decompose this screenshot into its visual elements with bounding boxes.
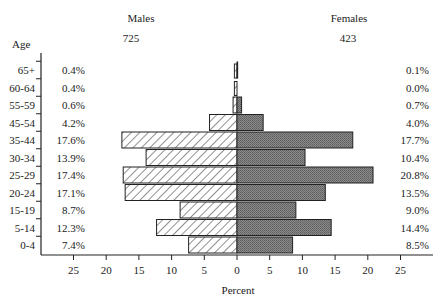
male-percent-label: 7.4% [62, 239, 85, 251]
male-bar [123, 167, 237, 183]
female-bar [237, 167, 373, 183]
age-group-label: 0-4 [20, 239, 35, 251]
female-bar [237, 202, 296, 218]
x-tick-label: 10 [297, 264, 308, 276]
x-tick-label: 0 [234, 264, 240, 276]
male-bar [210, 115, 237, 131]
age-group-label: 45-54 [9, 117, 35, 129]
female-percent-label: 4.0% [406, 117, 429, 129]
female-percent-label: 8.5% [406, 239, 429, 251]
female-percent-label: 0.7% [406, 99, 429, 111]
female-percent-label: 20.8% [401, 169, 429, 181]
x-tick-label: 5 [267, 264, 273, 276]
male-bar [125, 185, 237, 201]
male-percent-label: 0.4% [62, 64, 85, 76]
x-tick-label: 5 [202, 264, 208, 276]
x-tick-label: 20 [362, 264, 373, 276]
female-bar [237, 185, 325, 201]
female-percent-label: 17.7% [401, 134, 429, 146]
male-percent-label: 0.6% [62, 99, 85, 111]
male-percent-label: 12.3% [57, 222, 85, 234]
x-tick-label: 25 [68, 264, 79, 276]
female-bar [237, 132, 353, 148]
male-percent-label: 17.4% [57, 169, 85, 181]
female-percent-label: 0.1% [406, 64, 429, 76]
female-bar [237, 220, 331, 236]
male-bar [180, 202, 237, 218]
male-bar [189, 237, 237, 253]
age-group-label: 30-34 [9, 152, 35, 164]
male-bar [234, 82, 237, 96]
x-tick-label: 25 [395, 264, 406, 276]
female-percent-label: 14.4% [401, 222, 429, 234]
female-bar [237, 150, 305, 166]
age-group-label: 55-59 [9, 99, 35, 111]
female-percent-label: 10.4% [401, 152, 429, 164]
age-group-label: 5-14 [15, 222, 35, 234]
male-percent-label: 13.9% [57, 152, 85, 164]
age-group-label: 15-19 [9, 204, 35, 216]
male-bar [146, 150, 237, 166]
x-tick-label: 15 [133, 264, 144, 276]
female-bar [237, 62, 238, 78]
x-tick-label: 15 [330, 264, 341, 276]
male-bar [122, 132, 237, 148]
age-group-label: 20-24 [9, 187, 35, 199]
x-tick-label: 20 [101, 264, 112, 276]
female-percent-label: 9.0% [406, 204, 429, 216]
male-percent-label: 17.6% [57, 134, 85, 146]
age-group-label: 65+ [18, 64, 35, 76]
female-bar [237, 115, 263, 131]
age-group-label: 25-29 [9, 169, 35, 181]
female-bar [237, 237, 293, 253]
age-group-label: 35-44 [9, 134, 35, 146]
female-percent-label: 0.0% [406, 82, 429, 94]
male-bar [233, 97, 237, 113]
male-percent-label: 4.2% [62, 117, 85, 129]
age-group-label: 60-64 [9, 82, 35, 94]
female-percent-label: 13.5% [401, 187, 429, 199]
female-bar [237, 97, 242, 113]
male-percent-label: 17.1% [57, 187, 85, 199]
male-bar [157, 220, 237, 236]
male-percent-label: 8.7% [62, 204, 85, 216]
x-tick-label: 10 [166, 264, 177, 276]
male-percent-label: 0.4% [62, 82, 85, 94]
